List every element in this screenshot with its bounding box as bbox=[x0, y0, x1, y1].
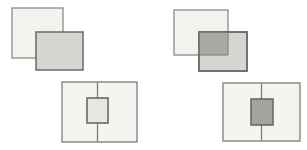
squares-diagram bbox=[0, 0, 307, 150]
br-inner-square bbox=[251, 99, 273, 125]
tr-overlap-region bbox=[199, 32, 228, 55]
figure-canvas bbox=[0, 0, 307, 150]
tl-front-square bbox=[36, 32, 83, 70]
bl-inner-square bbox=[87, 98, 108, 123]
panel-inset-light bbox=[62, 82, 137, 142]
panel-inset-dark bbox=[223, 83, 300, 141]
